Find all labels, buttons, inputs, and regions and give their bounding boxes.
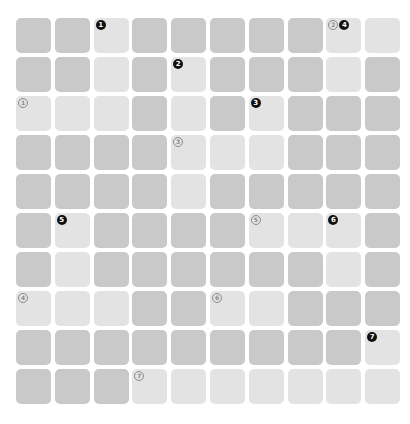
grid-cell-open[interactable] [171,96,206,131]
grid-cell-open[interactable]: 2 [171,57,206,92]
grid-cell-open[interactable] [288,213,323,248]
grid-cell-open[interactable] [249,369,284,404]
grid-cell-open[interactable]: 1 [16,96,51,131]
clue-number-badges: 1 [96,20,106,30]
grid-cell-open[interactable] [288,369,323,404]
grid-cell-open[interactable]: 7 [365,330,400,365]
grid-cell-block [326,135,361,170]
grid-cell-block [94,330,129,365]
grid-cell-block [326,174,361,209]
grid-cell-block [94,135,129,170]
grid-cell-open[interactable] [171,174,206,209]
grid-cell-block [16,252,51,287]
grid-cell-block [55,135,90,170]
grid-cell-open[interactable]: 7 [132,369,167,404]
grid-cell-block [249,18,284,53]
grid-cell-open[interactable] [326,252,361,287]
grid-cell-block [16,57,51,92]
across-clue-number-badge: 3 [173,137,183,147]
grid-cell-block [326,330,361,365]
grid-cell-block [210,330,245,365]
down-clue-number-badge: 4 [339,20,349,30]
grid-cell-open[interactable] [365,369,400,404]
grid-cell-block [55,330,90,365]
grid-cell-block [94,174,129,209]
grid-cell-open[interactable] [249,291,284,326]
grid-cell-block [288,57,323,92]
down-clue-number-badge: 2 [173,59,183,69]
down-clue-number-badge: 3 [251,98,261,108]
grid-cell-block [132,174,167,209]
grid-cell-block [16,369,51,404]
grid-cell-block [132,213,167,248]
clue-number-badges: 6 [328,215,338,225]
clue-number-badges: 1 [18,98,28,108]
grid-cell-block [132,57,167,92]
grid-cell-block [55,57,90,92]
grid-cell-block [132,291,167,326]
grid-cell-block [16,135,51,170]
grid-cell-open[interactable] [210,135,245,170]
down-clue-number-badge: 7 [367,332,377,342]
down-clue-number-badge: 1 [96,20,106,30]
grid-cell-block [365,213,400,248]
grid-cell-open[interactable]: 4 [16,291,51,326]
clue-number-badges: 7 [367,332,377,342]
clue-number-badges: 3 [251,98,261,108]
clue-number-badges: 3 [173,137,183,147]
clue-number-badges: 5 [251,215,261,225]
grid-cell-open[interactable]: 24 [326,18,361,53]
grid-cell-open[interactable] [365,18,400,53]
grid-cell-block [132,330,167,365]
clue-number-badges: 5 [57,215,67,225]
grid-cell-block [365,57,400,92]
grid-cell-block [16,330,51,365]
grid-cell-block [249,330,284,365]
grid-cell-block [288,330,323,365]
grid-cell-block [365,291,400,326]
grid-cell-open[interactable]: 6 [210,291,245,326]
grid-cell-open[interactable] [94,96,129,131]
grid-cell-open[interactable] [55,291,90,326]
grid-cell-block [132,252,167,287]
grid-cell-block [132,135,167,170]
crossword-grid: 12421335564677 [16,18,394,408]
grid-cell-open[interactable] [55,252,90,287]
clue-number-badges: 6 [212,293,222,303]
across-clue-number-badge: 7 [134,371,144,381]
grid-cell-block [55,369,90,404]
grid-cell-block [365,174,400,209]
grid-cell-block [16,213,51,248]
grid-cell-open[interactable]: 3 [171,135,206,170]
grid-cell-open[interactable]: 5 [249,213,284,248]
grid-cell-block [249,252,284,287]
grid-cell-open[interactable]: 3 [249,96,284,131]
grid-cell-open[interactable] [55,96,90,131]
grid-cell-block [171,291,206,326]
grid-cell-block [171,252,206,287]
grid-cell-open[interactable]: 1 [94,18,129,53]
grid-cell-open[interactable] [326,369,361,404]
grid-cell-block [171,18,206,53]
grid-cell-open[interactable] [210,369,245,404]
grid-cell-open[interactable] [171,369,206,404]
grid-cell-open[interactable]: 6 [326,213,361,248]
grid-cell-open[interactable] [94,291,129,326]
grid-cell-block [16,18,51,53]
grid-cell-open[interactable] [94,57,129,92]
grid-cell-block [249,57,284,92]
grid-cell-open[interactable] [326,57,361,92]
clue-number-badges: 2 [173,59,183,69]
grid-cell-block [210,252,245,287]
grid-cell-block [210,213,245,248]
grid-cell-block [171,213,206,248]
clue-number-badges: 7 [134,371,144,381]
grid-cell-open[interactable]: 5 [55,213,90,248]
across-clue-number-badge: 6 [212,293,222,303]
grid-cell-block [365,252,400,287]
grid-cell-open[interactable] [249,135,284,170]
grid-cell-block [288,291,323,326]
grid-cell-block [55,174,90,209]
grid-cell-block [326,291,361,326]
across-clue-number-badge: 5 [251,215,261,225]
